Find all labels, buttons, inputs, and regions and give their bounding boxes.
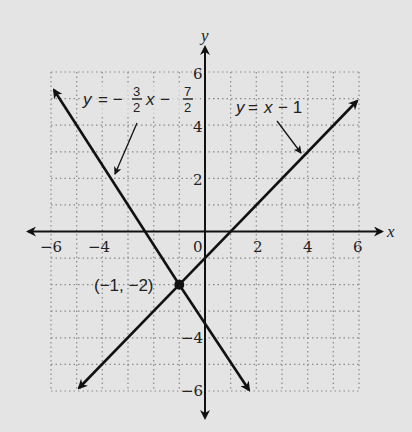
y-tick-n4: −4 <box>181 329 203 347</box>
svg-text:7: 7 <box>184 84 191 99</box>
x-tick-6: 6 <box>353 238 363 256</box>
svg-text:2: 2 <box>184 100 191 115</box>
svg-text:−: − <box>160 90 170 109</box>
svg-text:y: y <box>82 90 93 109</box>
line-y-neg-three-halves-x <box>54 90 249 390</box>
x-tick-n6: −6 <box>40 238 62 256</box>
svg-text:x: x <box>145 90 155 109</box>
line2-pointer-arrow <box>277 121 301 153</box>
svg-text:3: 3 <box>133 84 140 99</box>
svg-text:y: y <box>235 98 246 117</box>
intersection-point <box>174 280 184 290</box>
x-tick-0: 0 <box>193 238 203 256</box>
y-tick-6: 6 <box>193 65 203 83</box>
x-tick-2: 2 <box>253 238 263 256</box>
line2-equation-label: y = x − 1 <box>235 98 302 117</box>
y-tick-n6: −6 <box>181 382 203 400</box>
x-tick-n4: −4 <box>88 238 110 256</box>
y-tick-4: 4 <box>193 118 203 136</box>
x-axis-label: x <box>386 222 395 241</box>
coordinate-plane: x y −6 −4 0 2 4 6 6 4 2 −4 −6 (−1, −2) y… <box>0 0 412 432</box>
svg-text:=: = <box>248 98 258 117</box>
svg-text:x: x <box>263 98 273 117</box>
x-tick-4: 4 <box>303 238 313 256</box>
line1-pointer-arrow <box>115 123 137 174</box>
svg-text:= −: = − <box>98 90 123 109</box>
y-axis-label: y <box>199 26 209 45</box>
line1-equation-label: y = − 3 2 x − 7 2 <box>80 84 200 115</box>
y-tick-2: 2 <box>193 171 203 189</box>
svg-text:2: 2 <box>133 100 140 115</box>
svg-text:− 1: − 1 <box>278 98 302 117</box>
intersection-label: (−1, −2) <box>94 276 154 295</box>
